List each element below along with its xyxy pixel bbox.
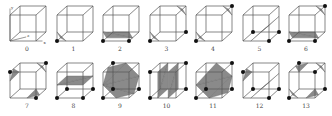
cube-edge	[269, 63, 279, 72]
cube-edge	[10, 89, 20, 98]
inside-vertex-marker	[55, 96, 59, 100]
cube-edge	[129, 6, 139, 15]
isosurface-triangle	[260, 16, 278, 32]
inside-vertex-marker	[297, 61, 301, 65]
case-label: 6	[283, 45, 329, 52]
inside-vertex-marker	[267, 39, 271, 43]
inside-vertex-marker	[277, 30, 281, 34]
cube-edge	[83, 6, 93, 15]
inside-vertex-marker	[230, 4, 234, 8]
cube-edge	[196, 63, 206, 72]
cube-case-10: 10	[144, 58, 190, 114]
inside-vertex-marker	[148, 39, 152, 43]
inside-vertex-marker	[251, 87, 255, 91]
inside-vertex-marker	[287, 39, 291, 43]
case-label: 0	[4, 45, 50, 52]
inside-vertex-marker	[230, 87, 234, 91]
inside-vertex-marker	[8, 70, 12, 74]
case-label: 7	[4, 102, 50, 109]
inside-vertex-marker	[137, 87, 141, 91]
inside-vertex-marker	[204, 87, 208, 91]
inside-vertex-marker	[230, 61, 234, 65]
cube-edge	[222, 63, 232, 72]
cube-edge	[222, 32, 232, 41]
case-label: 3	[144, 45, 190, 52]
inside-vertex-marker	[81, 96, 85, 100]
cube-case-13: 13	[283, 58, 329, 114]
cube-case-9: 9	[97, 58, 143, 114]
inside-vertex-marker	[194, 39, 198, 43]
case-label: 2	[97, 45, 143, 52]
cube-edge	[269, 6, 279, 15]
inside-vertex-marker	[148, 70, 152, 74]
isosurface-triangle	[260, 73, 278, 89]
cube-edge	[83, 63, 93, 72]
y-axis-label: y	[10, 5, 14, 10]
cube-case-7: 7	[4, 58, 50, 114]
inside-vertex-marker	[184, 87, 188, 91]
cube-edge	[150, 63, 160, 72]
cube-edge	[269, 89, 279, 98]
cube-edge	[83, 89, 93, 98]
inside-vertex-marker	[111, 61, 115, 65]
inside-vertex-marker	[44, 61, 48, 65]
cube-edge	[36, 6, 46, 15]
case-label: 1	[51, 45, 97, 52]
cube-edge	[57, 89, 67, 98]
inside-vertex-marker	[101, 96, 105, 100]
cube-case-1: 1	[51, 1, 97, 57]
cube-edge	[243, 6, 253, 15]
inside-vertex-marker	[313, 39, 317, 43]
inside-vertex-marker	[101, 39, 105, 43]
cube-case-0: yxz0	[4, 1, 50, 57]
inside-vertex-marker	[277, 87, 281, 91]
cube-edge	[150, 6, 160, 15]
inside-vertex-marker	[313, 70, 317, 74]
inside-vertex-marker	[91, 87, 95, 91]
case-label: 8	[51, 102, 97, 109]
inside-vertex-marker	[65, 87, 69, 91]
inside-vertex-marker	[34, 96, 38, 100]
inside-vertex-marker	[267, 96, 271, 100]
cube-case-12: 12	[237, 58, 283, 114]
inside-vertex-marker	[323, 4, 327, 8]
z-axis-label: z	[27, 33, 29, 38]
cube-edge	[83, 32, 93, 41]
inside-vertex-marker	[184, 30, 188, 34]
inside-vertex-marker	[194, 96, 198, 100]
cube-edge	[176, 32, 186, 41]
cube-case-11: 11	[190, 58, 236, 114]
inside-vertex-marker	[127, 39, 131, 43]
cube-edge	[103, 6, 113, 15]
case-label: 10	[144, 102, 190, 109]
case-label: 13	[283, 102, 329, 109]
marching-cubes-diagram: yxz012345678910111213	[0, 0, 332, 116]
inside-vertex-marker	[148, 96, 152, 100]
inside-vertex-marker	[287, 96, 291, 100]
cube-case-5: 5	[237, 1, 283, 57]
inside-vertex-marker	[251, 30, 255, 34]
cube-edge	[243, 89, 253, 98]
case-label: 4	[190, 45, 236, 52]
inside-vertex-marker	[55, 39, 59, 43]
cube-case-6: 6	[283, 1, 329, 57]
cube-edge	[269, 32, 279, 41]
cube-edge	[196, 6, 206, 15]
case-label: 11	[190, 102, 236, 109]
cube-case-8: 8	[51, 58, 97, 114]
cube-case-3: 3	[144, 1, 190, 57]
case-label: 5	[237, 45, 283, 52]
cube-edge	[243, 32, 253, 41]
case-label: 12	[237, 102, 283, 109]
cube-case-4: 4	[190, 1, 236, 57]
inside-vertex-marker	[184, 61, 188, 65]
cube-edge	[57, 6, 67, 15]
case-label: 9	[97, 102, 143, 109]
cube-edge	[289, 6, 299, 15]
inside-vertex-marker	[241, 70, 245, 74]
cube-edge	[57, 63, 67, 72]
cube-case-2: 2	[97, 1, 143, 57]
cube-edge	[176, 89, 186, 98]
inside-vertex-marker	[111, 87, 115, 91]
inside-vertex-marker	[323, 87, 327, 91]
